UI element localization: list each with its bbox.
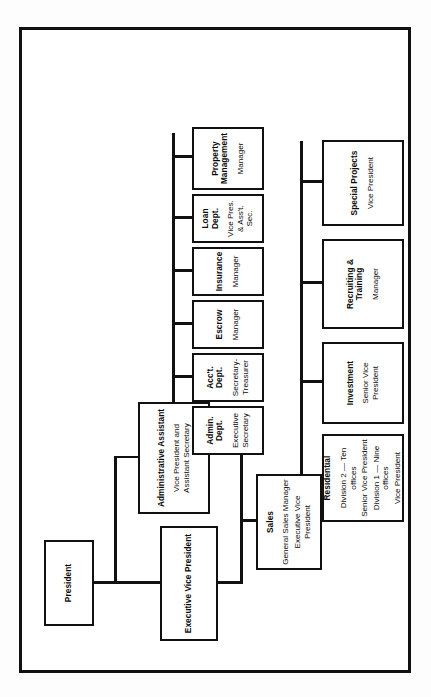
node-insurance-title: Insurance	[215, 252, 225, 292]
node-residential-sub-3: Division 1 — Nine offices	[372, 438, 391, 518]
node-escrow-sub: Manager	[231, 309, 241, 341]
connector-lower-spine	[240, 453, 243, 584]
node-admin-dept-title: Admin. Dept.	[206, 416, 225, 444]
connector-drop-property-mgmt	[172, 156, 192, 159]
connector-admin-assistant-drop	[114, 456, 138, 459]
node-acct-dept-sub: Secretary- Treasurer	[231, 359, 250, 396]
connector-execvp-down	[218, 582, 242, 585]
node-president-title: President	[64, 564, 74, 602]
connector-execvp-drop	[114, 582, 160, 585]
connector-drop-special-projects	[300, 181, 322, 184]
node-property-management[interactable]: Property Management Manager	[192, 127, 264, 190]
node-administrative-assistant-sub: Vice President and Assistant Secretary	[172, 423, 191, 493]
node-sales[interactable]: Sales General Sales Manager Executive Vi…	[256, 474, 322, 570]
node-admin-dept[interactable]: Admin. Dept. Executive Secretary	[192, 406, 264, 455]
node-sales-sub-1: General Sales Manager	[281, 479, 291, 564]
connector-drop-recruiting	[300, 282, 322, 285]
node-loan-dept-title: Loan Dept.	[201, 208, 220, 229]
node-property-management-sub: Manager	[236, 143, 246, 175]
node-residential-sub-2: Senior Vice President	[360, 439, 370, 517]
connector-drop-acct-dept	[172, 376, 192, 379]
node-sales-title: Sales	[266, 511, 276, 533]
node-acct-dept[interactable]: Acc't. Dept. Secretary- Treasurer	[192, 353, 264, 402]
connector-drop-insurance	[172, 270, 192, 273]
node-insurance[interactable]: Insurance Manager	[192, 247, 264, 296]
node-president[interactable]: President	[44, 540, 94, 626]
node-sales-sub-2: Executive Vice President	[293, 478, 312, 566]
connector-drop-loan-dept	[172, 217, 192, 220]
org-chart-stage: President Administrative Assistant Vice …	[22, 30, 408, 670]
connector-divisions-trunk	[300, 141, 303, 522]
node-acct-dept-title: Acc't. Dept.	[206, 366, 225, 389]
node-loan-dept-sub: Vice Pres. & Ass't. Sec.	[226, 198, 255, 239]
connector-president-spine	[114, 456, 117, 584]
node-executive-vice-president-title: Executive Vice President	[184, 534, 194, 633]
node-special-projects-sub: Vice President	[366, 157, 376, 209]
node-recruiting-training-sub: Manager	[371, 268, 381, 300]
node-executive-vice-president[interactable]: Executive Vice President	[160, 526, 218, 641]
node-escrow-title: Escrow	[215, 310, 225, 340]
node-residential-sub-4: Vice President	[393, 452, 403, 504]
connector-drop-escrow	[172, 323, 192, 326]
node-loan-dept[interactable]: Loan Dept. Vice Pres. & Ass't. Sec.	[192, 194, 264, 243]
node-investment[interactable]: Investment Senior Vice President	[322, 342, 404, 424]
node-special-projects-title: Special Projects	[350, 151, 360, 216]
node-administrative-assistant-title: Administrative Assistant	[157, 409, 167, 507]
connector-president-down	[94, 582, 114, 585]
node-investment-title: Investment	[346, 361, 356, 405]
node-residential-title: Residential	[323, 456, 333, 501]
node-investment-sub: Senior Vice President	[361, 346, 380, 420]
connector-drop-investment	[300, 381, 322, 384]
node-residential[interactable]: Residential Division 2 — Ten offices Sen…	[322, 434, 404, 522]
chart-page-frame: President Administrative Assistant Vice …	[19, 27, 411, 673]
node-escrow[interactable]: Escrow Manager	[192, 300, 264, 349]
node-residential-sub-1: Division 2 — Ten offices	[339, 438, 358, 518]
node-special-projects[interactable]: Special Projects Vice President	[322, 140, 404, 226]
node-recruiting-training[interactable]: Recruiting & Training Manager	[322, 239, 404, 329]
node-admin-dept-sub: Executive Secretary	[231, 413, 250, 448]
node-property-management-title: Property Management	[211, 133, 230, 184]
node-insurance-sub: Manager	[231, 256, 241, 288]
node-recruiting-training-title: Recruiting & Training	[346, 243, 365, 325]
